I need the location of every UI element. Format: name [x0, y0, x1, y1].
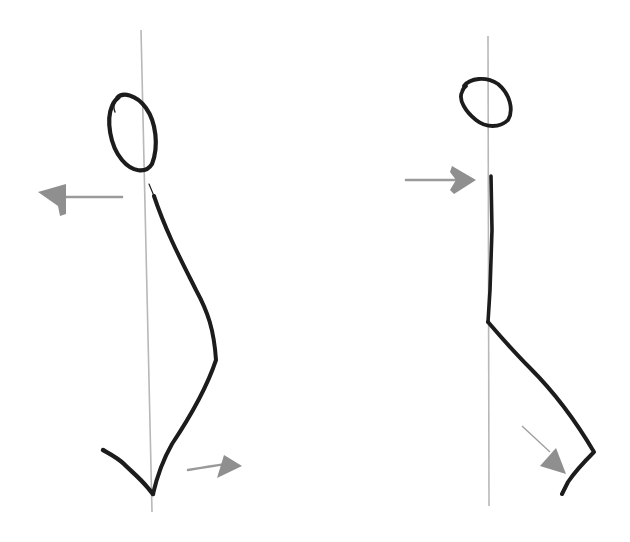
left-figure-foot [103, 450, 153, 494]
right-figure-head [461, 79, 511, 126]
diagram-canvas: Two stick-figure posture sketches with v… [0, 0, 630, 542]
left-figure [38, 30, 242, 512]
right-figure-leg [488, 322, 594, 494]
left-figure-torso [153, 196, 216, 494]
right-lower-arrow-icon [522, 426, 566, 474]
left-lower-arrow-icon [188, 455, 242, 478]
right-figure [406, 36, 594, 506]
left-upper-arrow-icon [38, 184, 122, 216]
left-figure-head [109, 95, 156, 171]
right-upper-arrow-icon [406, 166, 476, 194]
sketch-svg [0, 0, 630, 542]
